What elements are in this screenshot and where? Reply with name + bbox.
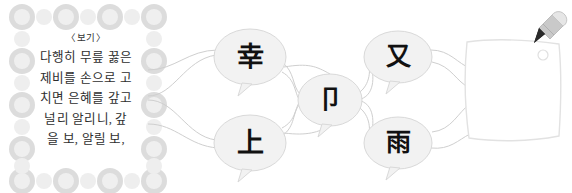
bubble-bottom-right bbox=[364, 117, 432, 180]
passage-label: 〈보기〉 bbox=[18, 31, 154, 46]
answer-note-area[interactable] bbox=[455, 0, 572, 193]
pencil-icon bbox=[534, 12, 567, 43]
passage-text: 〈보기〉 다행히 무릎 꿇은 제비를 손으로 고 치면 은혜를 갚고 널리 알리… bbox=[18, 31, 154, 150]
bubble-top-right bbox=[364, 31, 432, 94]
bubble-bottom-left bbox=[214, 115, 286, 182]
passage-line-5: 을 보, 알릴 보, bbox=[18, 129, 154, 150]
passage-line-3: 치면 은혜를 갚고 bbox=[18, 88, 154, 109]
passage-line-1: 다행히 무릎 꿇은 bbox=[18, 47, 154, 68]
note-paper bbox=[465, 40, 561, 141]
character-network: 幸 卩 又 上 雨 bbox=[140, 0, 470, 193]
bubble-top-left bbox=[214, 29, 286, 96]
worksheet-canvas: 〈보기〉 다행히 무릎 꿇은 제비를 손으로 고 치면 은혜를 갚고 널리 알리… bbox=[0, 0, 572, 193]
note-svg bbox=[455, 0, 572, 193]
passage-line-2: 제비를 손으로 고 bbox=[18, 68, 154, 89]
bubble-center bbox=[298, 74, 362, 137]
passage-line-4: 널리 알리니, 갚 bbox=[18, 109, 154, 130]
network-svg bbox=[140, 0, 470, 193]
